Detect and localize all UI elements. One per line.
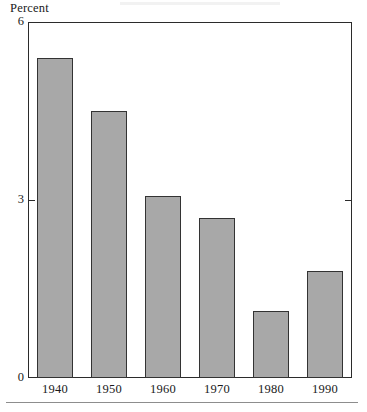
bar-1960 [145, 196, 181, 378]
x-tick-label-1960: 1960 [136, 381, 190, 397]
x-tick-label-1950: 1950 [82, 381, 136, 397]
y-axis-tick-labels: 036 [0, 0, 24, 412]
bar-chart-figure: Percent 036 194019501960197019801990 [0, 0, 367, 412]
scan-artifact [120, 2, 280, 5]
y-tick-label-0: 0 [18, 371, 24, 383]
y-tick-label-6: 6 [18, 15, 24, 27]
page-separator-rule [6, 402, 358, 403]
x-tick-label-1980: 1980 [244, 381, 298, 397]
plot-area [28, 22, 352, 378]
bar-1980 [253, 311, 289, 378]
x-axis-tick-labels: 194019501960197019801990 [28, 381, 352, 401]
y-tick-label-3: 3 [18, 193, 24, 205]
bar-1990 [307, 271, 343, 378]
bar-1940 [37, 58, 73, 378]
x-tick-label-1940: 1940 [28, 381, 82, 397]
x-tick-label-1970: 1970 [190, 381, 244, 397]
x-tick-label-1990: 1990 [298, 381, 352, 397]
y-tick-mark-right-3 [345, 200, 352, 201]
bar-1950 [91, 111, 127, 378]
y-tick-mark-3 [28, 200, 35, 201]
bar-1970 [199, 218, 235, 378]
